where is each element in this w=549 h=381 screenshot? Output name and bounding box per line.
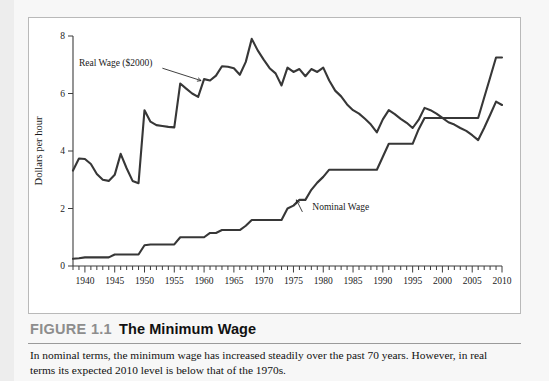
y-axis-tick-label: 2 <box>60 204 65 214</box>
minimum-wage-line-chart: 0246819401945195019551960196519701975198… <box>29 18 520 313</box>
figure-chart-card: 0246819401945195019551960196519701975198… <box>28 17 521 314</box>
annotation-label-nominal-wage: Nominal Wage <box>312 202 369 212</box>
x-axis-tick-label: 1945 <box>105 276 124 286</box>
x-axis-tick-label: 1950 <box>135 276 154 286</box>
x-axis-tick-label: 1975 <box>284 276 303 286</box>
figure-caption-box: In nominal terms, the minimum wage has i… <box>28 343 521 379</box>
x-axis-tick-label: 1990 <box>373 276 392 286</box>
x-axis-tick-label: 1980 <box>314 276 333 286</box>
x-axis-tick-label: 1955 <box>165 276 184 286</box>
annotation-leader-line <box>162 68 201 80</box>
annotation-label-real-wage-2000: Real Wage ($2000) <box>79 58 152 69</box>
x-axis-tick-label: 2000 <box>433 276 452 286</box>
y-axis-tick-label: 6 <box>60 89 65 99</box>
y-axis-title: Dollars per hour <box>33 116 44 185</box>
y-axis-tick-label: 8 <box>60 31 65 41</box>
x-axis-tick-label: 1995 <box>403 276 422 286</box>
y-axis-tick-label: 0 <box>60 261 65 271</box>
x-axis-tick-label: 1985 <box>344 276 363 286</box>
figure-header: FIGURE 1.1 The Minimum Wage <box>28 318 521 340</box>
x-axis-tick-label: 1940 <box>75 276 94 286</box>
x-axis-tick-label: 2010 <box>493 276 512 286</box>
x-axis-tick-label: 1960 <box>195 276 214 286</box>
x-axis-tick-label: 1965 <box>224 276 243 286</box>
figure-number: FIGURE 1.1 <box>30 321 112 337</box>
series-line-nominal-wage <box>73 58 502 259</box>
figure-title: The Minimum Wage <box>119 321 256 337</box>
x-axis-tick-label: 1970 <box>254 276 273 286</box>
figure-caption-text: In nominal terms, the minimum wage has i… <box>30 348 515 377</box>
chart-plot-area: 0246819401945195019551960196519701975198… <box>29 18 520 313</box>
y-axis-tick-label: 4 <box>60 146 65 156</box>
x-axis-tick-label: 2005 <box>463 276 482 286</box>
page-background: 0246819401945195019551960196519701975198… <box>0 0 549 381</box>
